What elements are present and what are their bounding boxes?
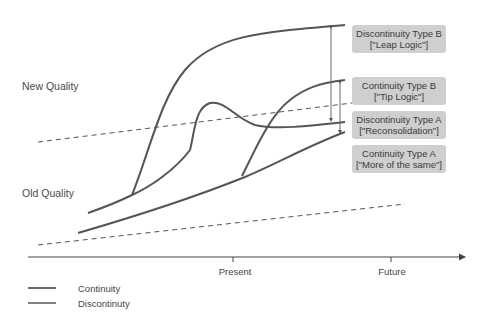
discontinuity-b-curve — [132, 25, 345, 195]
x-tick-present: Present — [219, 266, 252, 277]
box-title: Discontinuity Type A — [352, 114, 446, 125]
legend-label: Continuity — [78, 283, 120, 294]
x-tick-future: Future — [378, 266, 405, 277]
legend-discontinuity: Discontinuty — [28, 297, 130, 309]
box-subtitle: ["Tip Logic"] — [352, 91, 446, 102]
legend-continuity: Continuity — [28, 282, 120, 294]
box-continuity-b: Continuity Type B ["Tip Logic"] — [352, 77, 446, 105]
box-subtitle: ["Reconsolidation"] — [352, 125, 446, 136]
legend-label: Discontinuty — [78, 298, 130, 309]
box-title: Continuity Type B — [352, 80, 446, 91]
box-discontinuity-a: Discontinuity Type A ["Reconsolidation"] — [352, 111, 446, 139]
box-subtitle: ["Leap Logic"] — [352, 39, 446, 50]
legend-line-icon — [28, 302, 56, 304]
box-discontinuity-b: Discontinuity Type B ["Leap Logic"] — [352, 25, 446, 53]
legend-line-icon — [28, 287, 56, 289]
box-title: Continuity Type A — [352, 148, 446, 159]
box-title: Discontinuity Type B — [352, 28, 446, 39]
old-quality-label: Old Quality — [22, 187, 74, 199]
new-quality-label: New Quality — [22, 80, 79, 92]
box-subtitle: ["More of the same"] — [352, 159, 446, 170]
continuity-a-curve — [78, 132, 345, 233]
box-continuity-a: Continuity Type A ["More of the same"] — [352, 145, 446, 173]
continuity-b-curve — [242, 80, 345, 176]
